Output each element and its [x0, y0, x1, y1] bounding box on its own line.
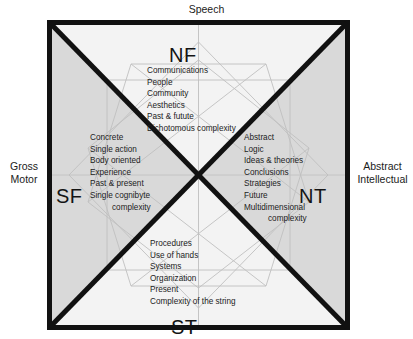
- quadrant-list-item: Ideas & theories: [244, 155, 307, 167]
- quadrant-list-item: Communications: [147, 65, 236, 77]
- quadrant-list-item: Concrete: [90, 132, 151, 144]
- diagram-canvas: Speech Gross Motor Abstract Intellectual: [0, 0, 413, 339]
- quadrant-list-item: complexity: [244, 213, 307, 225]
- quadrant-list-sf: ConcreteSingle actionBody orientedExperi…: [90, 132, 151, 213]
- quadrant-list-item: Single cognibyte: [90, 190, 151, 202]
- quadrant-list-nf: CommunicationsPeopleCommunityAestheticsP…: [147, 65, 236, 135]
- quadrant-list-item: Experience: [90, 167, 151, 179]
- quadrant-square: NF SF NT ST CommunicationsPeopleCommunit…: [47, 20, 350, 330]
- quadrant-list-item: Body oriented: [90, 155, 151, 167]
- quadrant-list-item: Organization: [150, 273, 236, 285]
- quadrant-list-item: Logic: [244, 144, 307, 156]
- quadrant-list-item: People: [147, 77, 236, 89]
- axis-label-right-abstract-intellectual: Abstract Intellectual: [352, 160, 413, 185]
- quadrant-label-sf: SF: [56, 185, 83, 208]
- quadrant-list-item: Complexity of the string: [150, 296, 236, 308]
- quadrant-list-item: Aesthetics: [147, 100, 236, 112]
- quadrant-label-st: ST: [171, 316, 198, 339]
- quadrant-list-item: Strategies: [244, 178, 307, 190]
- quadrant-list-item: Community: [147, 88, 236, 100]
- quadrant-list-item: Present: [150, 284, 236, 296]
- quadrant-list-item: Use of hands: [150, 250, 236, 262]
- quadrant-list-nt: AbstractLogicIdeas & theoriesConclusions…: [244, 132, 307, 225]
- quadrant-list-item: complexity: [90, 202, 151, 214]
- quadrant-list-item: Past & present: [90, 178, 151, 190]
- quadrant-list-item: Single action: [90, 144, 151, 156]
- quadrant-label-nf: NF: [169, 44, 197, 67]
- axis-label-top-speech: Speech: [0, 3, 413, 16]
- quadrant-list-item: Procedures: [150, 238, 236, 250]
- axis-label-left-gross-motor: Gross Motor: [2, 160, 46, 185]
- quadrant-list-item: Systems: [150, 261, 236, 273]
- quadrant-list-item: Future: [244, 190, 307, 202]
- quadrant-list-item: Conclusions: [244, 167, 307, 179]
- quadrant-list-item: Multidimensional: [244, 202, 307, 214]
- quadrant-list-st: ProceduresUse of handsSystemsOrganizatio…: [150, 238, 236, 308]
- quadrant-list-item: Past & futute: [147, 111, 236, 123]
- quadrant-list-item: Abstract: [244, 132, 307, 144]
- quadrant-list-item: Dichotomous complexity: [147, 123, 236, 135]
